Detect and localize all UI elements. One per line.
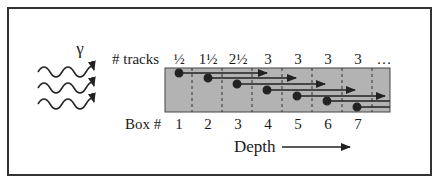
box-number-2: 2: [204, 117, 212, 132]
box-number-6: 6: [324, 117, 332, 132]
gamma-ray-waves-icon: [38, 66, 94, 109]
track-count-1: ½: [173, 52, 184, 67]
box-number-3: 3: [234, 117, 242, 132]
track-count-7: 3: [354, 52, 362, 67]
track-count-more: …: [377, 52, 392, 67]
track-count-4: 3: [264, 52, 272, 67]
box-label: Box #: [125, 117, 161, 132]
box-number-7: 7: [354, 117, 362, 132]
box-number-1: 1: [175, 117, 183, 132]
box-number-4: 4: [264, 117, 272, 132]
tracks-label: # tracks: [112, 52, 159, 67]
diagram-graphics: [0, 0, 440, 186]
track-count-6: 3: [324, 52, 332, 67]
track-count-3: 2½: [229, 52, 248, 67]
track-count-5: 3: [294, 52, 302, 67]
gamma-symbol: γ: [76, 40, 84, 57]
depth-label: Depth: [234, 138, 276, 155]
box-number-5: 5: [294, 117, 302, 132]
track-count-2: 1½: [199, 52, 218, 67]
